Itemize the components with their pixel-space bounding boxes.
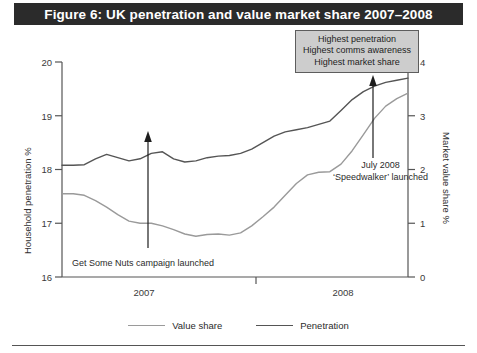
x-axis-label-2008: 2008	[318, 287, 368, 298]
left-axis-tick-18: 18	[30, 164, 52, 175]
footer-divider	[12, 345, 465, 346]
callout-box: Highest penetration Highest comms awaren…	[295, 30, 419, 73]
legend-label-penetration: Penetration	[300, 320, 349, 331]
legend-swatch-value-share	[128, 325, 165, 326]
x-axis-label-2007: 2007	[119, 287, 169, 298]
annotation-left-text: Get Some Nuts campaign launched	[72, 258, 214, 270]
annotation-right-line-1: July 2008	[333, 160, 428, 172]
left-axis-tick-19: 19	[30, 111, 52, 122]
figure-container: Figure 6: UK penetration and value marke…	[0, 0, 477, 353]
series-line-penetration	[62, 78, 408, 165]
callout-line-1: Highest penetration	[300, 34, 414, 45]
left-axis-ticks	[55, 62, 62, 277]
right-axis-tick-4: 4	[420, 57, 442, 68]
legend-item-penetration: Penetration	[256, 320, 349, 331]
annotation-right-text: July 2008 ‘Speedwalker’ launched	[333, 160, 428, 183]
left-axis-tick-20: 20	[30, 57, 52, 68]
annotation-right-line-2: ‘Speedwalker’ launched	[333, 172, 428, 184]
right-axis-tick-3: 3	[420, 111, 442, 122]
left-axis-title: Household penetration %	[22, 147, 33, 254]
callout-line-2: Highest comms awareness	[300, 45, 414, 56]
legend-swatch-penetration	[256, 325, 293, 326]
left-axis-tick-17: 17	[30, 218, 52, 229]
chart-area: 20 19 18 17 16 4 3 2 1 0 2007 2008 House…	[0, 26, 477, 301]
left-axis-tick-16: 16	[30, 272, 52, 283]
chart-legend: Value share Penetration	[0, 316, 477, 334]
callout-line-3: Highest market share	[300, 57, 414, 68]
legend-item-value-share: Value share	[128, 320, 222, 331]
right-axis-tick-0: 0	[420, 272, 442, 283]
legend-label-value-share: Value share	[172, 320, 222, 331]
right-axis-tick-1: 1	[420, 218, 442, 229]
right-axis-title: Market value share %	[441, 132, 452, 224]
page-title: Figure 6: UK penetration and value marke…	[44, 7, 432, 22]
annotation-arrow-left	[144, 131, 152, 248]
figure-title-bar: Figure 6: UK penetration and value marke…	[14, 3, 463, 25]
